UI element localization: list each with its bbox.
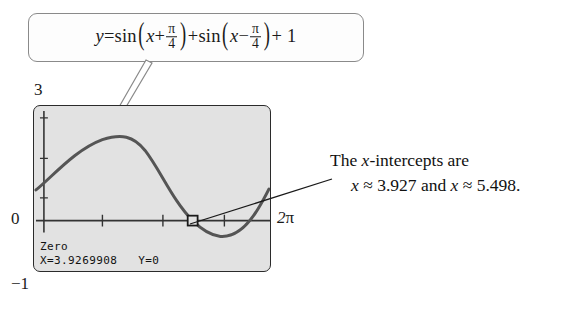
- equation-term2-numerator: π: [250, 22, 261, 36]
- equation-term1-variable: x: [146, 26, 154, 46]
- graphing-calculator-screen: Zero X=3.9269908 Y=0: [33, 105, 271, 272]
- equation-term2-fraction: π4: [250, 22, 261, 51]
- equation-term1-fraction: π4: [166, 22, 177, 51]
- x-axis-max-value: 2: [277, 208, 286, 227]
- calculator-readout: Zero X=3.9269908 Y=0: [40, 240, 159, 268]
- intercept-annotation: The x-intercepts are x ≈ 3.927 and x ≈ 5…: [330, 148, 565, 198]
- equation-callout-box: y=sin(x+π4)+sin(x−π4)+ 1: [28, 13, 364, 62]
- equation-term1-function: sin: [115, 26, 137, 46]
- annotation-second-intercept-value: ≈ 5.498.: [458, 175, 520, 195]
- trace-cursor-marker: [188, 216, 198, 226]
- equation-term2-sign: −: [238, 26, 249, 46]
- equation-plus-operator: +: [188, 26, 199, 46]
- y-axis-max-label: 3: [34, 80, 43, 100]
- equation-term1-open-paren: (: [138, 17, 144, 54]
- y-axis-origin-label: 0: [11, 209, 20, 229]
- equation-constant-term: + 1: [272, 26, 297, 46]
- annotation-first-intercept-value: ≈ 3.927 and: [359, 175, 451, 195]
- equation-text: y=sin(x+π4)+sin(x−π4)+ 1: [29, 23, 363, 52]
- equation-lhs: y: [96, 26, 104, 46]
- equation-term1-numerator: π: [166, 22, 177, 36]
- equation-term1-denominator: 4: [166, 36, 177, 51]
- calculator-status-label: Zero: [40, 240, 68, 253]
- equation-term2-denominator: 4: [250, 36, 261, 51]
- equation-term1-sign: +: [155, 26, 166, 46]
- equation-term2-function: sin: [198, 26, 220, 46]
- equation-term2-open-paren: (: [222, 17, 228, 54]
- x-axis-max-unit: π: [286, 208, 295, 227]
- function-curve: [36, 136, 269, 236]
- annotation-line1-suffix: -intercepts are: [369, 150, 469, 170]
- x-axis-max-label: 2π: [277, 208, 294, 228]
- annotation-first-intercept-variable: x: [351, 175, 359, 195]
- annotation-line-2: x ≈ 3.927 and x ≈ 5.498.: [330, 173, 565, 198]
- equation-term1-close-paren: ): [180, 17, 186, 54]
- equation-equals: =: [104, 26, 115, 46]
- calculator-coordinate-readout: X=3.9269908 Y=0: [40, 254, 159, 267]
- annotation-line-1: The x-intercepts are: [330, 150, 469, 170]
- y-axis-min-label: −1: [11, 274, 29, 294]
- equation-term2-close-paren: ): [264, 17, 270, 54]
- annotation-line1-prefix: The: [330, 150, 362, 170]
